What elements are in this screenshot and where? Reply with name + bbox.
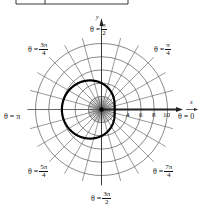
tick-label-6: 6 [139,112,143,119]
tick-label-8: 8 [152,112,156,119]
table-fragment [16,0,128,4]
angle-label-5pi-over-4: θ = 5π4 [28,164,48,179]
angle-label-3pi-over-2: θ = 3π2 [91,191,111,206]
y-axis-label: y [96,14,99,20]
axes [28,18,199,186]
angle-label-pi-over-2: θ = π2 [90,22,107,37]
angle-label-7pi-over-4: θ = 7π4 [153,164,173,179]
tick-label-4: 4 [126,112,130,119]
angle-label-pi-over-4: θ = π4 [154,42,171,57]
angle-label-0: θ = 0 [178,113,194,121]
x-axis-label: x [190,99,193,105]
angle-label-pi: θ = π [4,113,20,121]
origin-dot [99,107,103,111]
angle-label-3pi-over-4: θ = 3π4 [28,42,48,57]
tick-label-10: 10 [163,112,170,119]
x-axis-arrow-small-icon [194,108,198,111]
polar-figure: y x 4 6 8 10 θ = 0 θ = π θ = π2 θ = π4 θ… [0,0,207,213]
